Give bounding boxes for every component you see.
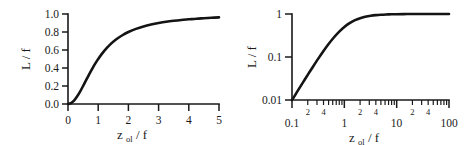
- y-axis-title: L / f: [18, 47, 33, 70]
- x-axis-title-main: z: [117, 127, 123, 142]
- x-tick-label: 4: [186, 114, 192, 126]
- x-minor-tick-label: 2: [410, 107, 414, 117]
- x-tick-label: 1: [95, 114, 101, 126]
- x-tick-label: 0: [65, 114, 71, 126]
- x-tick-label: 10: [391, 117, 403, 129]
- y-tick-label: 0.2: [45, 80, 60, 92]
- x-tick-labels: 0 1 2 3 4 5: [65, 114, 222, 126]
- x-tick-label: 1: [341, 117, 347, 129]
- y-tick-label: 0.4: [45, 62, 60, 74]
- x-axis-title-main: z: [349, 130, 355, 145]
- y-tick-label: 0.01: [262, 94, 282, 106]
- y-tick-label: 0.8: [45, 26, 60, 38]
- y-tick-labels: 0.01 0.1 1: [262, 8, 282, 106]
- x-axis-title-tail: / f: [368, 130, 380, 145]
- data-curve-log: [292, 14, 449, 100]
- y-tick-label: 0.6: [45, 44, 60, 56]
- x-minor-tick-label: 4: [321, 107, 326, 117]
- linear-plot-svg: 0.0 0.2 0.4 0.6 0.8 1.0 0 1 2 3 4 5 L / …: [0, 0, 234, 145]
- x-tick-label: 5: [216, 114, 222, 126]
- y-tick-label: 1.0: [45, 8, 60, 20]
- data-curve-linear: [68, 17, 219, 104]
- x-axis-title: z ol / f: [349, 130, 380, 145]
- y-tick-label: 0.1: [268, 51, 283, 63]
- x-minor-tick-label: 4: [374, 107, 379, 117]
- log-plot-svg: 0.01 0.1 1 0.1 1 10 100 242424 L / f z o…: [234, 0, 468, 145]
- x-tick-label: 0.1: [285, 117, 300, 129]
- y-axis-ticks: [62, 14, 68, 104]
- x-axis-title-subscript: ol: [358, 137, 365, 145]
- x-tick-labels: 0.1 1 10 100: [285, 117, 458, 129]
- y-tick-labels: 0.0 0.2 0.4 0.6 0.8 1.0: [45, 8, 60, 110]
- y-tick-label: 1: [276, 8, 282, 20]
- x-tick-label: 3: [156, 114, 162, 126]
- y-tick-label: 0.0: [45, 98, 60, 110]
- chart-panel-linear: 0.0 0.2 0.4 0.6 0.8 1.0 0 1 2 3 4 5 L / …: [0, 0, 234, 145]
- x-axis-ticks: [68, 104, 219, 111]
- x-minor-tick-labels: 242424: [306, 107, 431, 117]
- x-axis-title: z ol / f: [117, 127, 148, 144]
- x-tick-label: 2: [126, 114, 132, 126]
- x-minor-tick-label: 4: [426, 107, 431, 117]
- chart-panel-log: 0.01 0.1 1 0.1 1 10 100 242424 L / f z o…: [234, 0, 468, 145]
- x-axis-title-tail: / f: [136, 127, 148, 142]
- axis-spines: [292, 14, 449, 100]
- figure-container: 0.0 0.2 0.4 0.6 0.8 1.0 0 1 2 3 4 5 L / …: [0, 0, 468, 145]
- x-axis-title-subscript: ol: [126, 134, 133, 144]
- x-minor-tick-label: 2: [358, 107, 362, 117]
- x-tick-label: 100: [440, 117, 458, 129]
- x-minor-tick-label: 2: [306, 107, 310, 117]
- y-axis-title: L / f: [244, 45, 259, 68]
- y-axis-ticks: [285, 14, 292, 100]
